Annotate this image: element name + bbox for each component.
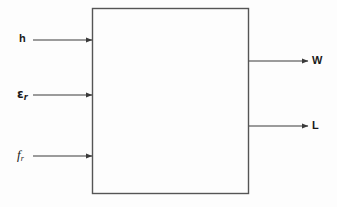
- epsilon-subscript: r: [24, 93, 28, 102]
- output-label-w: W: [312, 55, 322, 66]
- system-block: [93, 9, 249, 194]
- input-label-h: h: [19, 33, 26, 44]
- input-label-f-r: fr: [17, 148, 24, 163]
- input-label-epsilon-r: εr: [17, 88, 28, 102]
- block-diagram-graphics: [0, 0, 337, 207]
- f-subscript: r: [21, 154, 24, 163]
- epsilon-glyph: ε: [17, 87, 24, 101]
- diagram-canvas: h εr fr W L: [0, 0, 337, 207]
- output-label-l: L: [312, 120, 319, 131]
